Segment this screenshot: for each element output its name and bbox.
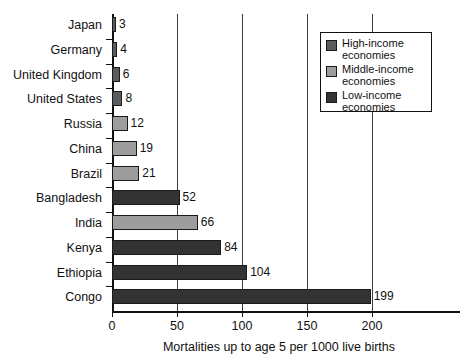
x-tick (307, 311, 308, 317)
bar-row: 66 (112, 212, 372, 237)
category-label: India (0, 214, 106, 233)
category-label: United Kingdom (0, 66, 106, 85)
category-label: Germany (0, 41, 106, 60)
bar (112, 42, 117, 57)
bar (112, 265, 247, 280)
bar-chart: JapanGermanyUnited KingdomUnited StatesR… (0, 0, 464, 364)
x-tick (177, 311, 178, 317)
x-tick-label: 200 (362, 318, 383, 334)
bar (112, 67, 120, 82)
y-tick (106, 212, 112, 213)
bar-value-label: 3 (119, 15, 126, 34)
y-tick (106, 237, 112, 238)
category-label: Kenya (0, 239, 106, 258)
legend-label: High-incomeeconomies (342, 38, 404, 61)
bar-value-label: 19 (140, 139, 153, 158)
x-axis-title-text: Mortalities up to age 5 per 1000 live bi… (69, 340, 395, 354)
y-tick (106, 64, 112, 65)
bar (112, 17, 116, 32)
category-label: Russia (0, 115, 106, 134)
y-tick (106, 262, 112, 263)
legend: High-incomeeconomiesMiddle-incomeeconomi… (320, 32, 432, 112)
x-tick (372, 311, 373, 317)
bar-value-label: 6 (123, 65, 130, 84)
bar-value-label: 8 (125, 89, 132, 108)
bar (112, 240, 221, 255)
y-tick (106, 39, 112, 40)
y-tick (106, 113, 112, 114)
bar (112, 141, 137, 156)
bar-value-label: 84 (224, 238, 237, 257)
legend-label: Middle-incomeeconomies (342, 64, 414, 87)
bar-row: 199 (112, 286, 372, 311)
y-tick (106, 187, 112, 188)
legend-swatch-high (326, 40, 337, 51)
category-label: United States (0, 90, 106, 109)
legend-swatch-low (326, 92, 337, 103)
x-tick-label: 150 (297, 318, 318, 334)
bar-value-label: 12 (131, 114, 144, 133)
y-tick (106, 88, 112, 89)
x-tick (242, 311, 243, 317)
y-axis-category-labels: JapanGermanyUnited KingdomUnited StatesR… (0, 14, 106, 311)
legend-item: Middle-incomeeconomies (326, 64, 427, 87)
x-axis-title: Mortalities up to age 5 per 1000 live bi… (0, 340, 464, 354)
bar-row: 19 (112, 138, 372, 163)
bar-value-label: 4 (120, 40, 127, 59)
category-label: Congo (0, 288, 106, 307)
x-axis-line (112, 311, 460, 313)
x-tick (112, 311, 113, 317)
bar (112, 166, 139, 181)
bar-value-label: 52 (183, 188, 196, 207)
bar (112, 215, 198, 230)
bar-row: 84 (112, 237, 372, 262)
y-tick (106, 138, 112, 139)
bar (112, 190, 180, 205)
legend-swatch-middle (326, 66, 337, 77)
bar-row: 21 (112, 163, 372, 188)
category-label: Brazil (0, 165, 106, 184)
bar-row: 52 (112, 187, 372, 212)
legend-item: High-incomeeconomies (326, 38, 427, 61)
bar-value-label: 104 (250, 263, 270, 282)
legend-label: Low-incomeeconomies (342, 90, 401, 113)
bar (112, 289, 371, 304)
category-label: Bangladesh (0, 189, 106, 208)
legend-item: Low-incomeeconomies (326, 90, 427, 113)
bar-value-label: 199 (374, 287, 394, 306)
category-label: Japan (0, 16, 106, 35)
category-label: China (0, 140, 106, 159)
bar (112, 116, 128, 131)
x-tick-label: 50 (170, 318, 184, 334)
x-tick-label: 0 (109, 318, 116, 334)
y-tick (106, 286, 112, 287)
x-tick-label: 100 (232, 318, 253, 334)
bar-value-label: 21 (142, 164, 155, 183)
category-label: Ethiopia (0, 264, 106, 283)
bar-value-label: 66 (201, 213, 214, 232)
bar-row: 104 (112, 262, 372, 287)
y-tick (106, 163, 112, 164)
bar-row: 12 (112, 113, 372, 138)
bar (112, 91, 122, 106)
